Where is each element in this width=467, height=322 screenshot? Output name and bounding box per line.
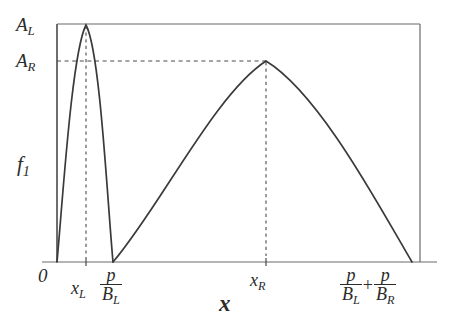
amplitude-left-symbol: A xyxy=(16,14,28,35)
fraction-p-over-bl: p BL xyxy=(100,266,122,306)
peak-right-symbol: x xyxy=(250,270,258,290)
fraction-denominator-subscript: R xyxy=(387,293,394,307)
fraction-numerator: p xyxy=(340,266,362,284)
peak-right-subscript: R xyxy=(258,279,265,293)
amplitude-left-subscript: L xyxy=(28,23,35,38)
plot-svg xyxy=(0,0,467,322)
peak-left-label: xL xyxy=(71,278,86,302)
origin-label: 0 xyxy=(38,265,48,287)
fraction-denominator-subscript: L xyxy=(353,293,360,307)
tick-label-sum-of-fractions: p BL + p BR xyxy=(340,266,396,306)
fraction-numerator: p xyxy=(374,266,396,284)
amplitude-left-label: AL xyxy=(16,14,35,39)
fraction-denominator-subscript: L xyxy=(113,293,120,307)
fraction-p-over-br-sum: p BR xyxy=(374,266,396,306)
peak-left-subscript: L xyxy=(79,287,86,301)
plot-frame xyxy=(42,24,437,262)
plus-operator: + xyxy=(362,275,374,296)
fraction-denominator: BR xyxy=(374,284,396,306)
y-axis-subscript: 1 xyxy=(23,163,30,179)
tick-label-p-over-bl: p BL xyxy=(100,266,122,306)
fraction-numerator: p xyxy=(100,266,122,284)
amplitude-right-label: AR xyxy=(16,50,36,75)
amplitude-right-subscript: R xyxy=(28,59,36,74)
fraction-p-over-bl-sum: p BL xyxy=(340,266,362,306)
x-axis-label: x xyxy=(219,291,231,317)
amplitude-right-symbol: A xyxy=(16,50,28,71)
figure-canvas: AL AR f1 0 xL p BL xR p BL + p BR x xyxy=(0,0,467,322)
fraction-denominator: BL xyxy=(340,284,362,306)
peak-left-symbol: x xyxy=(71,278,79,298)
peak-right-label: xR xyxy=(250,270,265,294)
curve-right-lobe xyxy=(113,61,412,262)
y-axis-label: f1 xyxy=(17,152,30,180)
fraction-denominator: BL xyxy=(100,284,122,306)
